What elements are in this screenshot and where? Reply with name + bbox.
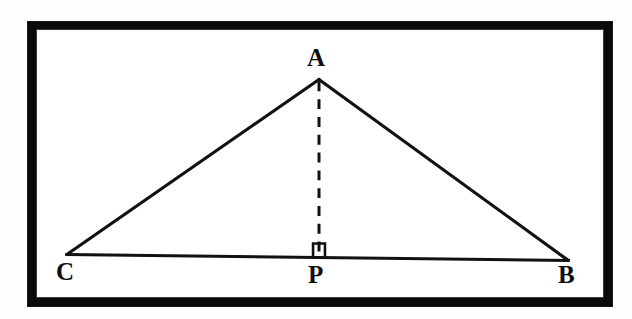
vertex-label-b: B — [558, 262, 575, 287]
point-label-p: P — [308, 262, 323, 287]
vertex-label-c: C — [56, 259, 74, 284]
figure-page: A C P B — [0, 0, 632, 319]
segment-side-ac — [67, 79, 319, 254]
vertex-label-a: A — [307, 45, 325, 70]
segment-base-cb — [67, 254, 568, 260]
segment-side-ab — [319, 79, 568, 260]
geometry-canvas — [39, 32, 601, 295]
